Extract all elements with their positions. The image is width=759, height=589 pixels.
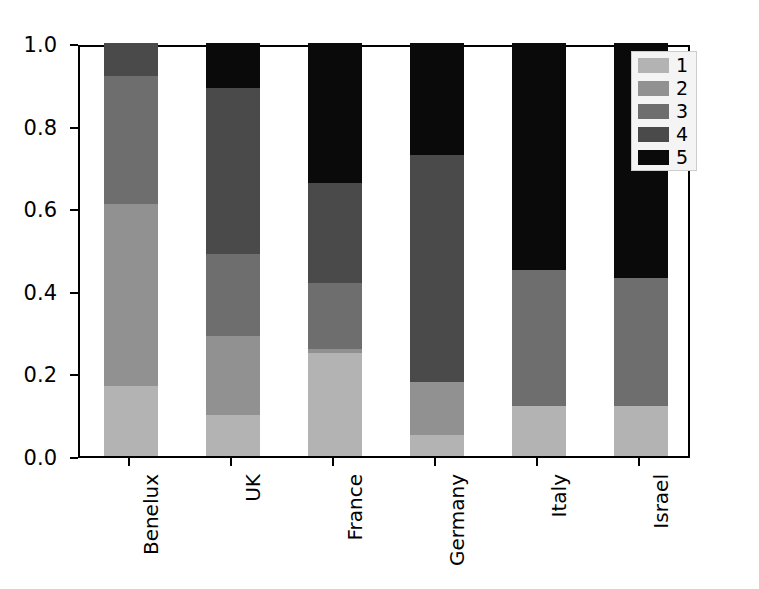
- bar-segment[interactable]: [308, 183, 361, 282]
- x-tick-label: UK: [241, 474, 265, 502]
- y-tick-label: 0.2: [24, 363, 57, 387]
- y-tick-mark: [70, 209, 78, 211]
- bar-segment[interactable]: [308, 353, 361, 456]
- bar-stack: [512, 47, 565, 456]
- legend-swatch: [638, 150, 669, 165]
- legend-swatch: [638, 127, 669, 142]
- x-tick-label: Benelux: [139, 474, 163, 555]
- bar-segment[interactable]: [308, 43, 361, 183]
- bar-segment[interactable]: [512, 270, 565, 406]
- bar-stack: [104, 47, 157, 456]
- bar-segment[interactable]: [206, 88, 259, 253]
- bar-column[interactable]: [104, 47, 157, 456]
- y-tick-mark: [70, 374, 78, 376]
- bar-segment[interactable]: [410, 155, 463, 382]
- bar-segment[interactable]: [410, 43, 463, 155]
- x-tick-label: Israel: [649, 474, 673, 529]
- y-tick-label: 0.8: [24, 116, 57, 140]
- x-tick-label: Germany: [445, 474, 469, 566]
- legend-item[interactable]: 5: [638, 149, 690, 165]
- x-tick-mark: [128, 458, 130, 466]
- bar-segment[interactable]: [512, 43, 565, 270]
- legend-swatch: [638, 81, 669, 96]
- legend-label: 5: [676, 148, 688, 167]
- bar-column[interactable]: [512, 47, 565, 456]
- bar-column[interactable]: [410, 47, 463, 456]
- bar-column[interactable]: [308, 47, 361, 456]
- bars-layer: [80, 47, 688, 456]
- legend-item[interactable]: 2: [638, 80, 690, 96]
- bar-segment[interactable]: [104, 386, 157, 456]
- bar-segment[interactable]: [104, 76, 157, 204]
- x-tick-mark: [638, 458, 640, 466]
- x-tick-mark: [230, 458, 232, 466]
- bar-segment[interactable]: [614, 406, 667, 456]
- bar-segment[interactable]: [206, 415, 259, 456]
- bar-segment[interactable]: [206, 254, 259, 337]
- y-tick-label: 0.6: [24, 198, 57, 222]
- bar-segment[interactable]: [614, 278, 667, 406]
- bar-segment[interactable]: [206, 336, 259, 414]
- x-tick-mark: [536, 458, 538, 466]
- legend-label: 3: [676, 102, 688, 121]
- bar-column[interactable]: [206, 47, 259, 456]
- bar-segment[interactable]: [104, 43, 157, 76]
- y-tick-label: 1.0: [24, 33, 57, 57]
- bar-segment[interactable]: [308, 283, 361, 349]
- stacked-bar-chart-figure: 0.00.20.40.60.81.0 BeneluxUKFranceGerman…: [0, 0, 759, 589]
- bar-segment[interactable]: [104, 204, 157, 386]
- legend-swatch: [638, 58, 669, 73]
- bar-segment[interactable]: [512, 406, 565, 456]
- y-tick-mark: [70, 127, 78, 129]
- x-tick-label: France: [343, 474, 367, 541]
- legend-label: 1: [676, 56, 688, 75]
- legend: 12345: [631, 51, 697, 171]
- y-tick-label: 0.0: [24, 446, 57, 470]
- x-tick-mark: [434, 458, 436, 466]
- y-tick-mark: [70, 292, 78, 294]
- legend-label: 2: [676, 79, 688, 98]
- bar-stack: [308, 47, 361, 456]
- legend-label: 4: [676, 125, 688, 144]
- x-tick-mark: [332, 458, 334, 466]
- bar-segment[interactable]: [410, 382, 463, 436]
- bar-segment[interactable]: [206, 43, 259, 88]
- x-tick-label: Italy: [547, 474, 571, 517]
- legend-item[interactable]: 1: [638, 57, 690, 73]
- legend-item[interactable]: 3: [638, 103, 690, 119]
- bar-stack: [410, 47, 463, 456]
- y-tick-mark: [70, 457, 78, 459]
- legend-item[interactable]: 4: [638, 126, 690, 142]
- legend-swatch: [638, 104, 669, 119]
- y-tick-mark: [70, 44, 78, 46]
- bar-stack: [206, 47, 259, 456]
- y-tick-label: 0.4: [24, 281, 57, 305]
- bar-segment[interactable]: [410, 435, 463, 456]
- plot-area: [78, 45, 690, 458]
